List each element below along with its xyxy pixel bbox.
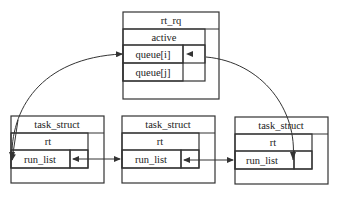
arrowhead-icon — [183, 157, 190, 163]
arrowhead-icon — [290, 152, 296, 160]
link-queue-to-left-task — [12, 54, 122, 160]
task-struct-left: task_struct rt run_list — [11, 116, 104, 183]
rt-label: rt — [157, 136, 163, 147]
arrowhead-icon — [9, 152, 15, 160]
rt-rq-queue-j-label: queue[j] — [136, 67, 171, 78]
task-struct-right: task_struct rt run_list — [235, 117, 328, 184]
run-list-label: run_list — [135, 154, 167, 165]
task-struct-title: task_struct — [258, 120, 304, 131]
arrowhead-icon — [227, 157, 234, 163]
task-struct-title: task_struct — [34, 119, 80, 130]
task-struct-title: task_struct — [145, 119, 191, 130]
rt-rq-queue-i-label: queue[i] — [136, 49, 171, 60]
arrowhead-icon — [72, 156, 79, 162]
task-struct-middle: task_struct rt run_list — [122, 116, 215, 183]
rt-rq-active-label: active — [151, 32, 176, 43]
arrowhead-icon — [114, 156, 121, 162]
rt-label: rt — [270, 137, 276, 148]
rt-rq-struct: rt_rq active queue[i] queue[j] — [123, 12, 219, 99]
run-list-label: run_list — [24, 154, 56, 165]
run-list-label: run_list — [246, 155, 278, 166]
arrowhead-icon — [186, 51, 193, 57]
rt-label: rt — [45, 136, 51, 147]
rt-rq-title: rt_rq — [161, 15, 182, 26]
runqueue-diagram: rt_rq active queue[i] queue[j] task_stru… — [0, 0, 340, 199]
